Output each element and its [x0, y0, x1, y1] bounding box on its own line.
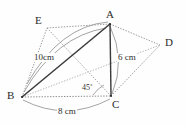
edge-line-EA	[47, 24, 110, 28]
vertex-label-D: D	[165, 37, 173, 48]
vertex-label-E: E	[35, 15, 42, 26]
figure-canvas	[0, 0, 187, 126]
measurement-label-ac: 6 cm	[117, 53, 137, 62]
angle-label-acb: 45˚	[82, 84, 93, 92]
arc-angle-45	[93, 85, 104, 95]
edge-line-AC	[110, 24, 111, 96]
vertex-dot-B	[21, 96, 23, 98]
edge-line-BC	[22, 96, 111, 97]
measurement-label-bc: 8 cm	[57, 107, 77, 116]
measurement-label-ab: 10cm	[33, 53, 55, 62]
edge-line-EC	[47, 28, 111, 96]
vertex-dot-C	[110, 95, 112, 97]
vertex-dot-A	[109, 23, 111, 25]
edge-line-AD	[110, 24, 160, 45]
geometry-figure: A B C D E 10cm 6 cm 8 cm 45˚	[0, 0, 187, 126]
vertex-label-C: C	[112, 99, 119, 110]
vertex-label-B: B	[7, 90, 14, 101]
vertex-label-A: A	[106, 9, 114, 20]
